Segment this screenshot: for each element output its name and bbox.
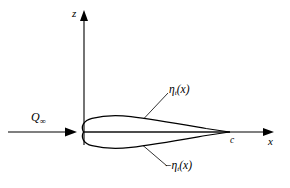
freestream-subscript: ∞ xyxy=(40,116,46,126)
z-axis xyxy=(80,10,88,145)
figure-canvas xyxy=(0,0,290,188)
lower-surface-label: −ηt(x) xyxy=(165,160,192,173)
airfoil-figure: z x Q∞ ηt(x) −ηt(x) c xyxy=(0,0,290,188)
chord-length-label: c xyxy=(230,136,234,146)
lower-surface-argument: (x) xyxy=(179,159,192,171)
lower-surface-curve xyxy=(82,132,229,148)
lower-label-leader-line xyxy=(143,146,167,167)
z-axis-arrowhead-icon xyxy=(80,10,88,21)
upper-surface-label: ηt(x) xyxy=(169,84,189,97)
freestream-symbol: Q xyxy=(31,110,40,124)
freestream-velocity-label: Q∞ xyxy=(31,111,46,125)
z-axis-label: z xyxy=(72,8,76,19)
upper-label-leader-line xyxy=(144,93,168,119)
upper-surface-curve xyxy=(82,116,229,132)
x-axis-label: x xyxy=(268,136,273,147)
upper-surface-argument: (x) xyxy=(177,83,190,95)
freestream-arrowhead-icon xyxy=(65,128,77,137)
freestream-arrow xyxy=(8,128,77,137)
